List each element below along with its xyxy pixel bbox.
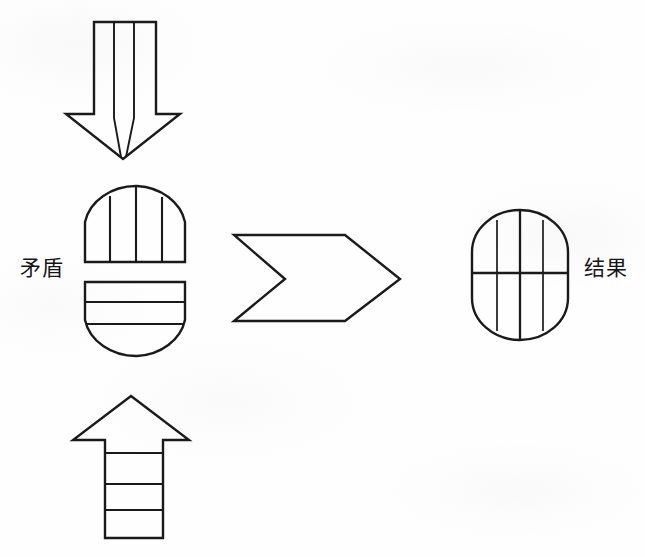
diagram-canvas: 矛盾 结果 bbox=[0, 0, 645, 557]
contradiction-bottom-half bbox=[85, 282, 185, 356]
diagram-artwork bbox=[0, 0, 645, 557]
result-rounded-rectangle bbox=[472, 210, 568, 340]
down-arrow-outline bbox=[66, 22, 180, 159]
contradiction-top-half bbox=[85, 186, 185, 262]
down-arrow-inner-line-2 bbox=[126, 22, 134, 157]
chevron-outline bbox=[234, 235, 400, 321]
down-arrow-inner-line-1 bbox=[114, 22, 121, 157]
label-contradiction: 矛盾 bbox=[20, 258, 64, 279]
label-result: 结果 bbox=[584, 258, 628, 279]
bottom-dome-outline bbox=[85, 282, 185, 356]
chevron-arrow bbox=[234, 235, 400, 321]
up-arrow bbox=[73, 396, 189, 538]
up-arrow-outline bbox=[73, 396, 189, 538]
down-arrow bbox=[66, 22, 180, 159]
